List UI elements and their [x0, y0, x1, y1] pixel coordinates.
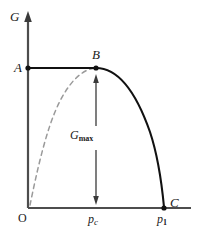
gmax-arrow-down-icon: [93, 196, 99, 205]
pc-subscript: c: [94, 217, 98, 227]
solid-descending-curve: [96, 68, 164, 207]
y-axis-label: G: [10, 10, 19, 23]
x-tick-label-p1: p1: [157, 213, 167, 227]
gmax-subscript: max: [79, 134, 94, 143]
y-axis-arrow-icon: [24, 11, 32, 22]
x-tick-label-pc: pc: [88, 213, 98, 227]
point-marker-b: [93, 65, 98, 70]
origin-label: O: [18, 212, 27, 224]
gmax-base: G: [70, 128, 79, 142]
gmax-measure-arrow: [93, 74, 99, 205]
point-marker-c: [161, 205, 166, 210]
gmax-arrow-up-icon: [93, 74, 99, 83]
y-axis: [24, 11, 32, 208]
point-label-c: C: [170, 196, 179, 209]
figure-container: G A B C O Gmax pc p1: [0, 0, 200, 243]
gmax-label: Gmax: [70, 129, 93, 143]
p1-subscript: 1: [163, 218, 167, 227]
point-marker-a: [25, 65, 30, 70]
point-label-a: A: [14, 61, 22, 74]
point-label-b: B: [92, 48, 100, 61]
